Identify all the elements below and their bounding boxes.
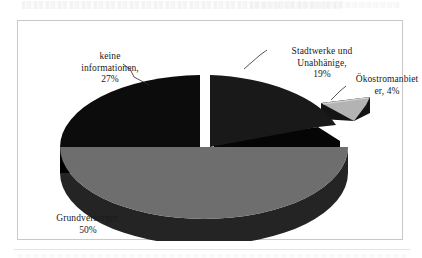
page-rule-line xyxy=(14,249,410,250)
leader-line-stadtwerke xyxy=(244,50,267,69)
scanned-text-artifact-strip-right xyxy=(250,2,400,8)
data-label-oekostromanbieter: Ökostromanbiet er, 4% xyxy=(338,74,422,97)
page-canvas: keine informationen, 27% Stadtwerke und … xyxy=(0,0,422,258)
slice-top-keine-informationen xyxy=(60,75,200,147)
data-label-grundversorger: Grundversorger, 50% xyxy=(32,213,144,236)
data-label-keine-informationen: keine informationen, 27% xyxy=(64,51,156,86)
chart-frame: keine informationen, 27% Stadtwerke und … xyxy=(17,20,403,240)
page-footer-artifact-strip xyxy=(18,254,406,258)
